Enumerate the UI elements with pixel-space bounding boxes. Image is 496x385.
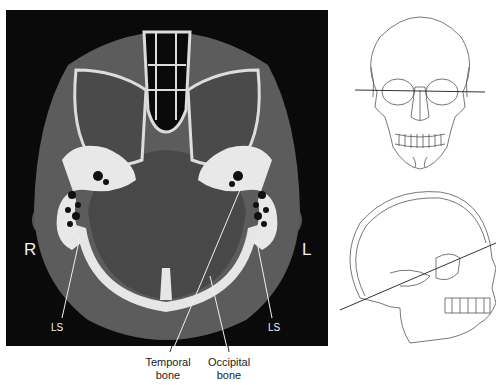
caption-occipital-line2: bone: [189, 369, 269, 382]
caption-occipital-bone: Occipital bone: [189, 356, 269, 382]
lateral-skull-diagram: [340, 188, 496, 353]
caption-occipital-line1: Occipital: [189, 356, 269, 369]
frontal-skull-diagram: [355, 12, 485, 172]
